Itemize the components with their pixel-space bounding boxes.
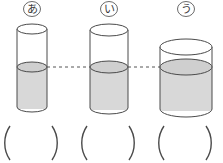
answer-blank-i[interactable]: [82, 126, 135, 160]
cylinder-i-water-surface: [90, 61, 128, 73]
answer-blank-u-open-paren: [159, 126, 164, 160]
cylinder-i-water: [90, 67, 128, 114]
cylinder-a: [17, 24, 47, 112]
label-group-i: い: [101, 2, 118, 17]
label-i-text: い: [104, 3, 115, 16]
answer-blank-u-close-paren: [206, 126, 211, 160]
cylinder-a-water-fill: [17, 67, 47, 112]
cylinder-i: [90, 24, 128, 114]
cylinder-a-water: [17, 67, 47, 112]
cylinders-diagram: あ い う: [0, 0, 223, 163]
label-group-u: う: [178, 2, 195, 17]
cylinder-u-rim: [160, 39, 212, 55]
answer-blank-u[interactable]: [159, 126, 212, 160]
cylinder-a-water-surface: [17, 62, 47, 72]
answer-blank-a[interactable]: [5, 126, 58, 160]
cylinder-u: [160, 39, 212, 117]
worksheet-figure: あ い う: [0, 0, 223, 163]
answer-blank-i-open-paren: [82, 126, 87, 160]
label-group-a: あ: [24, 2, 41, 17]
label-a-text: あ: [27, 3, 38, 16]
cylinder-a-rim: [17, 24, 47, 34]
cylinder-i-rim: [90, 24, 128, 36]
label-u-text: う: [181, 3, 192, 16]
answer-blank-a-close-paren: [52, 126, 57, 160]
cylinder-i-water-fill: [90, 67, 128, 114]
answer-blank-i-close-paren: [129, 126, 134, 160]
cylinder-u-water-surface: [160, 59, 212, 75]
answer-blank-a-open-paren: [5, 126, 10, 160]
